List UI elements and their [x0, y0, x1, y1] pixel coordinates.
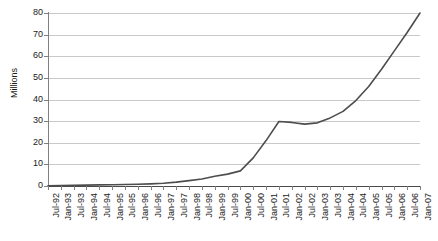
x-tick-mark: [189, 186, 190, 190]
y-tick-mark: [44, 100, 48, 101]
x-tick-mark: [99, 186, 100, 190]
y-tick-mark: [44, 78, 48, 79]
x-tick-mark: [253, 186, 254, 190]
x-tick-mark: [305, 186, 306, 190]
x-tick-mark: [61, 186, 62, 190]
y-tick-mark: [44, 143, 48, 144]
x-tick-mark: [228, 186, 229, 190]
data-series-layer: [0, 0, 438, 241]
x-tick-mark: [202, 186, 203, 190]
x-tick-mark: [343, 186, 344, 190]
x-tick-mark: [394, 186, 395, 190]
x-tick-mark: [382, 186, 383, 190]
x-tick-mark: [163, 186, 164, 190]
y-tick-mark: [44, 164, 48, 165]
x-tick-mark: [369, 186, 370, 190]
x-tick-mark: [317, 186, 318, 190]
x-tick-mark: [125, 186, 126, 190]
x-tick-mark: [292, 186, 293, 190]
x-tick-mark: [240, 186, 241, 190]
x-tick-mark: [86, 186, 87, 190]
y-tick-mark: [44, 13, 48, 14]
x-tick-mark: [266, 186, 267, 190]
x-tick-mark: [407, 186, 408, 190]
y-tick-mark: [44, 121, 48, 122]
x-tick-mark: [176, 186, 177, 190]
series-line-0: [48, 13, 420, 186]
x-tick-mark: [356, 186, 357, 190]
x-tick-mark: [279, 186, 280, 190]
x-tick-mark: [420, 186, 421, 190]
x-tick-mark: [330, 186, 331, 190]
x-tick-mark: [151, 186, 152, 190]
x-tick-mark: [74, 186, 75, 190]
y-tick-mark: [44, 56, 48, 57]
line-chart: Millions 01020304050607080 Jul-92Jan-93J…: [0, 0, 438, 241]
x-tick-mark: [48, 186, 49, 190]
x-tick-mark: [215, 186, 216, 190]
y-tick-mark: [44, 35, 48, 36]
x-tick-mark: [138, 186, 139, 190]
x-tick-mark: [112, 186, 113, 190]
